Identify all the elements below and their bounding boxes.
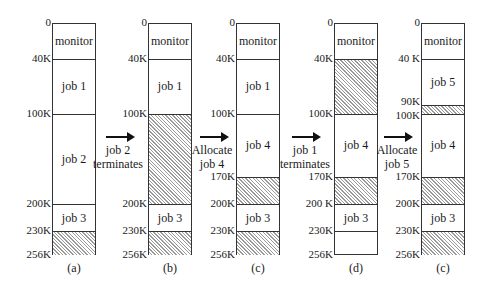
transition-line1: Allocate <box>182 143 242 157</box>
segment-job-3: job 3 <box>53 204 95 231</box>
address-tick: 100K <box>123 108 147 119</box>
memory-map-5: monitorjob 5job 4job 3 <box>421 23 465 255</box>
address-tick: 256K <box>123 249 147 260</box>
address-tick: 40K <box>216 53 235 64</box>
segment-monitor: monitor <box>53 24 95 59</box>
free-hole-segment <box>237 231 279 255</box>
segment-label: job 3 <box>158 211 182 226</box>
transition-label: Allocatejob 4 <box>182 143 242 171</box>
address-tick: 256K <box>211 249 235 260</box>
transition-line1: job 1 <box>275 143 335 157</box>
segment-label: job 3 <box>246 211 270 226</box>
segment-job-3: job 3 <box>237 204 279 231</box>
caption-label: (c) <box>236 261 280 276</box>
caption-label: (d) <box>334 261 378 276</box>
address-tick: 90K <box>401 96 420 107</box>
segment-label: job 3 <box>431 211 455 226</box>
transition-line2: terminates <box>88 157 148 171</box>
address-tick: 230K <box>396 225 420 236</box>
segment-label: job 5 <box>431 75 455 90</box>
segment-job-3: job 3 <box>335 204 377 231</box>
segment-label: job 4 <box>344 138 368 153</box>
arrow-icon <box>292 136 318 138</box>
free-hole-segment <box>53 231 95 255</box>
segment-job-1: job 1 <box>53 59 95 113</box>
address-tick: 0 <box>46 17 52 28</box>
segment-label: job 3 <box>344 211 368 226</box>
segment-label: monitor <box>424 34 462 49</box>
segment-job-3: job 3 <box>422 204 464 231</box>
address-tick: 40K <box>128 53 147 64</box>
transition-line1: Allocate <box>367 143 427 157</box>
address-tick: 230K <box>123 225 147 236</box>
transition-line1: job 2 <box>88 143 148 157</box>
memory-map-3: monitorjob 1job 4job 3 <box>236 23 280 255</box>
segment-monitor: monitor <box>237 24 279 59</box>
address-tick: 0 <box>230 17 236 28</box>
transition-line2: terminates <box>275 157 335 171</box>
segment-job-1: job 1 <box>237 59 279 113</box>
segment-label: job 4 <box>246 138 270 153</box>
transition-label: job 1terminates <box>275 143 335 171</box>
caption-label: (b) <box>148 261 192 276</box>
caption-label: (c) <box>421 261 465 276</box>
memory-map-1: monitorjob 1job 2job 3 <box>52 23 96 255</box>
free-hole-segment <box>335 59 377 113</box>
address-tick: 0 <box>415 17 421 28</box>
segment-label: job 1 <box>246 79 270 94</box>
transition-line2: job 5 <box>367 157 427 171</box>
address-tick: 40K <box>32 53 51 64</box>
segment-job-1: job 1 <box>149 59 191 113</box>
address-tick: 256K <box>396 249 420 260</box>
free-hole-segment <box>237 177 279 204</box>
segment-label: monitor <box>55 34 93 49</box>
address-tick: 200K <box>123 198 147 209</box>
segment-job-4: job 4 <box>237 114 279 177</box>
segment-label: job 1 <box>62 79 86 94</box>
memory-map-4: monitorjob 4job 3 <box>334 23 378 255</box>
address-tick: 40 K <box>398 53 420 64</box>
segment-label: job 3 <box>62 211 86 226</box>
address-tick: 230K <box>27 225 51 236</box>
address-tick: 100K <box>396 110 420 121</box>
free-hole-segment <box>422 231 464 255</box>
address-tick: 256K <box>27 249 51 260</box>
address-tick: 100K <box>211 108 235 119</box>
empty-segment <box>335 231 377 255</box>
address-tick: 100K <box>27 108 51 119</box>
memory-map-2: monitorjob 1job 3 <box>148 23 192 255</box>
free-hole-segment <box>422 105 464 114</box>
segment-job-4: job 4 <box>422 114 464 177</box>
segment-label: monitor <box>239 34 277 49</box>
arrow-icon <box>384 136 410 138</box>
free-hole-segment <box>149 231 191 255</box>
free-hole-segment <box>422 177 464 204</box>
address-tick: 0 <box>328 17 334 28</box>
transition-line2: job 4 <box>182 157 242 171</box>
segment-label: job 2 <box>62 152 86 167</box>
arrow-icon <box>106 136 132 138</box>
address-tick: 40K <box>314 53 333 64</box>
address-tick: 256K <box>309 249 333 260</box>
address-tick: 230K <box>211 225 235 236</box>
address-tick: 230K <box>309 225 333 236</box>
segment-monitor: monitor <box>422 24 464 59</box>
segment-label: monitor <box>151 34 189 49</box>
address-tick: 200 K <box>306 198 333 209</box>
arrow-icon <box>200 136 226 138</box>
transition-label: job 2terminates <box>88 143 148 171</box>
segment-label: job 4 <box>431 138 455 153</box>
caption-label: (a) <box>52 261 96 276</box>
address-tick: 170K <box>309 171 333 182</box>
segment-label: monitor <box>337 34 375 49</box>
address-tick: 0 <box>142 17 148 28</box>
address-tick: 170K <box>396 171 420 182</box>
segment-job-5: job 5 <box>422 59 464 104</box>
segment-monitor: monitor <box>149 24 191 59</box>
address-tick: 170K <box>211 171 235 182</box>
segment-label: job 1 <box>158 79 182 94</box>
address-tick: 200K <box>396 198 420 209</box>
segment-monitor: monitor <box>335 24 377 59</box>
address-tick: 200K <box>27 198 51 209</box>
address-tick: 100K <box>309 108 333 119</box>
